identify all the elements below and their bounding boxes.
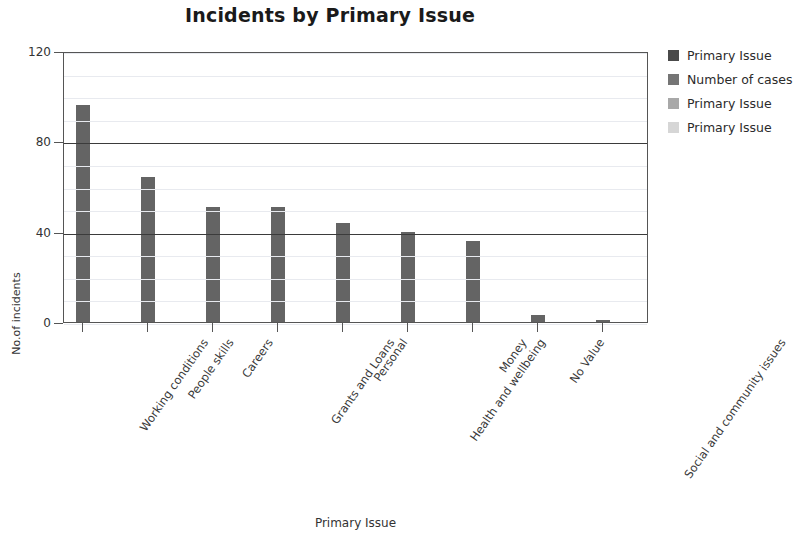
gridline-minor	[64, 211, 647, 212]
legend-swatch-icon	[668, 74, 679, 85]
y-axis-title: No.of incidents	[10, 254, 23, 374]
x-axis-tick-label: Social and community issues	[681, 336, 788, 481]
y-tick-mark	[54, 52, 63, 53]
x-tick-mark	[602, 323, 603, 332]
gridline-major	[64, 234, 647, 235]
x-axis-tick-label: Grants and Loans	[328, 336, 397, 427]
bar	[141, 177, 155, 322]
gridline-minor	[64, 121, 647, 122]
y-tick-mark	[54, 142, 63, 143]
bars-layer	[64, 53, 647, 322]
x-tick-mark	[472, 323, 473, 332]
x-axis	[63, 323, 648, 333]
legend-item[interactable]: Primary Issue	[668, 120, 800, 135]
x-tick-mark	[82, 323, 83, 332]
x-axis-title: Primary Issue	[63, 516, 648, 530]
x-axis-tick-label: No Value	[566, 336, 607, 386]
legend-swatch-icon	[668, 50, 679, 61]
gridline-minor	[64, 189, 647, 190]
gridline-minor	[64, 166, 647, 167]
gridline-major	[64, 143, 647, 144]
bar	[206, 207, 220, 322]
y-axis: 04080120No.of incidents	[0, 52, 63, 323]
y-axis-tick-label: 120	[28, 45, 51, 59]
chart-title: Incidents by Primary Issue	[0, 4, 660, 26]
x-tick-mark	[407, 323, 408, 332]
x-tick-mark	[277, 323, 278, 332]
bar	[466, 241, 480, 322]
x-tick-mark	[342, 323, 343, 332]
gridline-minor	[64, 76, 647, 77]
x-tick-mark	[212, 323, 213, 332]
plot-area	[63, 52, 648, 323]
gridline-minor	[64, 279, 647, 280]
legend-label: Primary Issue	[687, 120, 772, 135]
bar	[271, 207, 285, 322]
gridline-minor	[64, 53, 647, 54]
legend-label: Number of cases	[687, 72, 792, 87]
gridline-minor	[64, 256, 647, 257]
y-axis-tick-label: 0	[43, 316, 51, 330]
legend-label: Primary Issue	[687, 48, 772, 63]
bar-chart: Incidents by Primary Issue 04080120No.of…	[0, 0, 800, 545]
x-axis-tick-label: Careers	[238, 336, 275, 380]
bar	[401, 232, 415, 322]
x-tick-mark	[147, 323, 148, 332]
y-axis-tick-label: 40	[36, 226, 51, 240]
x-tick-mark	[537, 323, 538, 332]
bar	[76, 105, 90, 322]
bar	[531, 315, 545, 322]
gridline-minor	[64, 98, 647, 99]
legend-swatch-icon	[668, 98, 679, 109]
bar	[336, 223, 350, 322]
y-tick-mark	[54, 323, 63, 324]
bar	[596, 320, 610, 322]
gridline-minor	[64, 301, 647, 302]
legend-item[interactable]: Number of cases	[668, 72, 800, 87]
legend-item[interactable]: Primary Issue	[668, 96, 800, 111]
legend-item[interactable]: Primary Issue	[668, 48, 800, 63]
y-axis-tick-label: 80	[36, 135, 51, 149]
legend: Primary IssueNumber of casesPrimary Issu…	[668, 48, 800, 144]
y-tick-mark	[54, 233, 63, 234]
legend-label: Primary Issue	[687, 96, 772, 111]
legend-swatch-icon	[668, 122, 679, 133]
